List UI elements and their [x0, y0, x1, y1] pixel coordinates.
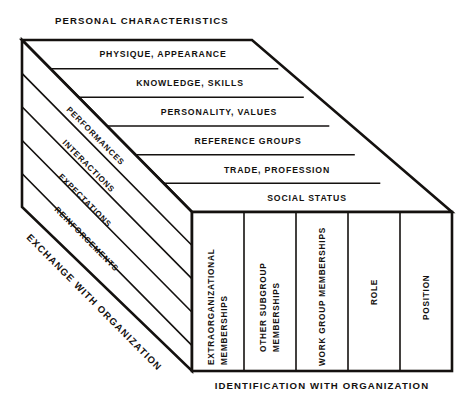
figure-canvas: PHYSIQUE, APPEARANCE KNOWLEDGE, SKILLS P… [0, 0, 474, 403]
front-col-label-2-line1: WORK GROUP MEMBERSHIPS [318, 227, 327, 366]
block-diagram-svg: PHYSIQUE, APPEARANCE KNOWLEDGE, SKILLS P… [0, 0, 474, 403]
front-col-label-0-line1: EXTRAORGANIZATIONAL [207, 249, 216, 365]
top-row-label-5: SOCIAL STATUS [267, 193, 347, 203]
front-col-label-1-line1: OTHER SUBGROUP [259, 263, 268, 352]
top-row-label-1: KNOWLEDGE, SKILLS [136, 78, 244, 88]
top-row-label-2: PERSONALITY, VALUES [161, 107, 277, 117]
front-col-label-0-line2: MEMBERSHIPS [220, 295, 229, 365]
front-col-label-4-line1: POSITION [422, 274, 431, 320]
front-col-label-1-line2: MEMBERSHIPS [272, 282, 281, 352]
front-col-label-3-line1: ROLE [370, 279, 379, 305]
top-axis-label: PERSONAL CHARACTERISTICS [55, 15, 229, 26]
top-row-label-3: REFERENCE GROUPS [194, 136, 301, 146]
top-row-label-0: PHYSIQUE, APPEARANCE [99, 49, 226, 59]
top-row-label-4: TRADE, PROFESSION [224, 165, 330, 175]
bottom-axis-label: IDENTIFICATION WITH ORGANIZATION [215, 380, 429, 391]
